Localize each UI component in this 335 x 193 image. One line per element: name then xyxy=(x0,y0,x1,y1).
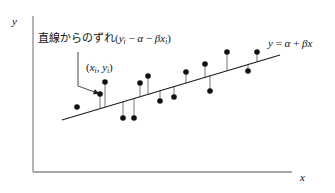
data-point xyxy=(171,94,177,100)
data-point xyxy=(102,79,108,85)
data-point xyxy=(74,104,80,110)
point-label-paren-close: ) xyxy=(109,61,113,73)
equation-x: x xyxy=(308,37,313,49)
formula-minus-two: − xyxy=(143,32,155,44)
data-point xyxy=(183,69,189,75)
scatter-points-group xyxy=(74,49,260,121)
data-point xyxy=(120,115,126,121)
data-point xyxy=(137,80,143,86)
data-point xyxy=(254,49,260,55)
figure-canvas xyxy=(0,0,335,193)
regression-line-equation-label: y = α + βx xyxy=(268,38,312,49)
formula-paren-close: ) xyxy=(167,32,171,44)
x-axis-label: x xyxy=(300,172,305,183)
formula-minus-one: − xyxy=(126,32,138,44)
equation-equals: = xyxy=(273,37,285,49)
data-point xyxy=(131,115,137,121)
deviation-annotation: 直線からのずれ(yi − α − βxi) xyxy=(38,33,171,44)
point-coordinate-label: (xi, yi) xyxy=(86,62,113,73)
data-point xyxy=(207,88,213,94)
data-point xyxy=(224,49,230,55)
deviation-annotation-formula: (yi − α − βxi) xyxy=(115,32,171,44)
equation-plus: + xyxy=(290,37,302,49)
data-point xyxy=(202,61,208,67)
data-point xyxy=(145,73,151,79)
data-point xyxy=(157,98,163,104)
deviation-annotation-japanese: 直線からのずれ xyxy=(38,32,115,45)
data-point xyxy=(245,68,251,74)
y-axis-label: y xyxy=(12,16,17,27)
regression-figure: y x 直線からのずれ(yi − α − βxi) (xi, yi) y = α… xyxy=(0,0,335,193)
